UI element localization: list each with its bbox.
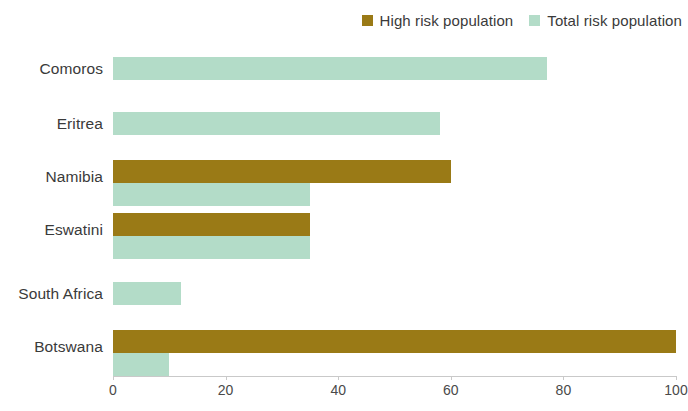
category-label-botswana: Botswana (0, 338, 103, 356)
x-tick-mark-100 (676, 376, 677, 380)
x-tick-mark-80 (563, 376, 564, 380)
category-label-namibia: Namibia (0, 168, 103, 186)
bar-comoros-total-risk-population (113, 57, 547, 80)
bar-south-africa-total-risk-population (113, 282, 181, 305)
x-axis-line (113, 376, 676, 377)
category-label-comoros: Comoros (0, 60, 103, 78)
x-tick-mark-60 (451, 376, 452, 380)
x-tick-label-60: 60 (443, 382, 459, 398)
bar-botswana-high-risk-population (113, 330, 676, 353)
bar-eswatini-total-risk-population (113, 236, 310, 259)
cropped-caption-strip (0, 406, 686, 411)
bar-eritrea-total-risk-population (113, 112, 440, 135)
bar-namibia-high-risk-population (113, 160, 451, 183)
category-label-south-africa: South Africa (0, 285, 103, 303)
x-tick-label-40: 40 (330, 382, 346, 398)
bar-namibia-total-risk-population (113, 183, 310, 206)
x-tick-label-80: 80 (556, 382, 572, 398)
x-tick-label-100: 100 (664, 382, 687, 398)
bar-botswana-total-risk-population (113, 353, 169, 376)
bar-eswatini-high-risk-population (113, 213, 310, 236)
x-tick-label-20: 20 (218, 382, 234, 398)
x-tick-mark-20 (226, 376, 227, 380)
category-label-eritrea: Eritrea (0, 115, 103, 133)
x-tick-mark-0 (113, 376, 114, 380)
category-label-eswatini: Eswatini (0, 221, 103, 239)
x-tick-mark-40 (338, 376, 339, 380)
x-tick-label-0: 0 (109, 382, 117, 398)
